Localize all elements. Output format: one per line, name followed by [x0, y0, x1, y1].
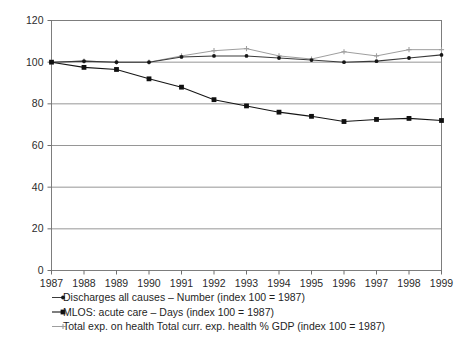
- legend-label: Total exp. on health Total curr. exp. he…: [63, 320, 385, 332]
- data-series-group: [49, 46, 444, 124]
- y-tick-label: 20: [32, 222, 44, 234]
- legend-item-2: MLOS: acute care – Days (index 100 = 198…: [52, 306, 274, 318]
- x-tick-label: 1992: [202, 277, 226, 289]
- legend-label: Discharges all causes – Number (index 10…: [63, 291, 305, 303]
- x-tick-label: 1987: [40, 277, 64, 289]
- x-tick-label: 1991: [170, 277, 194, 289]
- x-tick-label: 1990: [137, 277, 161, 289]
- x-tick-label: 1996: [332, 277, 356, 289]
- x-axis-ticks-group: [52, 271, 442, 275]
- x-tick-label: 1988: [72, 277, 96, 289]
- x-tick-label: 1994: [267, 277, 291, 289]
- y-tick-label: 60: [32, 139, 44, 151]
- y-tick-label: 120: [26, 14, 44, 26]
- line-chart-svg: 020406080100120 198719881989199019911992…: [0, 0, 469, 339]
- x-tick-label: 1998: [397, 277, 421, 289]
- x-axis-labels-group: 1987198819891990199119921993199419951996…: [40, 277, 454, 289]
- x-tick-label: 1993: [235, 277, 259, 289]
- chart-figure: 020406080100120 198719881989199019911992…: [0, 0, 469, 339]
- legend-label: MLOS: acute care – Days (index 100 = 198…: [63, 306, 274, 318]
- y-tick-label: 100: [26, 56, 44, 68]
- y-tick-label: 40: [32, 181, 44, 193]
- y-axis-labels-group: 020406080100120: [26, 14, 44, 276]
- x-tick-label: 1997: [365, 277, 389, 289]
- series-2: [49, 60, 444, 124]
- gridlines-group: [52, 62, 442, 229]
- y-tick-label: 80: [32, 97, 44, 109]
- x-tick-label: 1995: [300, 277, 324, 289]
- legend-item-3: Total exp. on health Total curr. exp. he…: [52, 320, 385, 332]
- y-tick-label: 0: [38, 264, 44, 276]
- chart-legend: Discharges all causes – Number (index 10…: [52, 291, 385, 332]
- x-tick-label: 1989: [105, 277, 129, 289]
- x-tick-label: 1999: [430, 277, 454, 289]
- y-axis-ticks-group: [48, 21, 52, 271]
- legend-item-1: Discharges all causes – Number (index 10…: [52, 291, 305, 303]
